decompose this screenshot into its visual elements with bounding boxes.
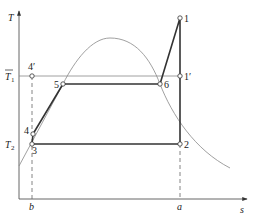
point-4-label: 4 xyxy=(24,125,29,136)
point-2-label: 2 xyxy=(184,139,189,150)
point-5-label: 5 xyxy=(54,79,59,90)
saturation-dome-curve xyxy=(19,38,230,168)
tick-a-label: a xyxy=(177,201,182,212)
point-5-marker xyxy=(61,82,65,86)
point-4prime-label: 4′ xyxy=(28,61,35,72)
y-axis-label: T xyxy=(8,12,15,23)
point-2-marker xyxy=(178,142,182,146)
ts-diagram: T s T 1 T 2 b a 1 1′ 2 3 4 4′ 5 6 xyxy=(0,0,262,220)
point-1prime-label: 1′ xyxy=(184,71,191,82)
point-1prime-marker xyxy=(178,74,182,78)
t1-bar-label: T 1 xyxy=(5,70,15,84)
point-4prime-marker xyxy=(30,74,34,78)
point-1-label: 1 xyxy=(184,13,189,24)
svg-text:1: 1 xyxy=(11,76,15,84)
x-axis-label: s xyxy=(240,204,244,215)
tick-b-label: b xyxy=(29,201,34,212)
svg-text:2: 2 xyxy=(11,144,15,152)
point-3-label: 3 xyxy=(32,145,37,156)
point-1-marker xyxy=(178,16,182,20)
point-6-marker xyxy=(158,82,162,86)
point-4-marker xyxy=(31,132,35,136)
t2-label: T 2 xyxy=(5,139,15,152)
point-6-label: 6 xyxy=(164,79,169,90)
